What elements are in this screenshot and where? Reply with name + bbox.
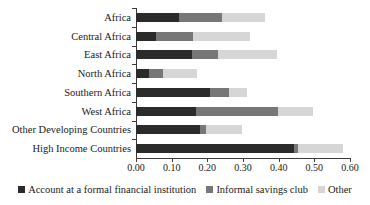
y-axis-tick-label: North Africa xyxy=(0,64,131,83)
x-axis-tick-label: 0.30 xyxy=(234,163,252,173)
legend-label: Informal savings club xyxy=(216,184,308,195)
bar-segment-other xyxy=(222,13,265,22)
x-axis-tick-label: 0.60 xyxy=(341,163,359,173)
bar-segment-other xyxy=(298,144,343,153)
bar-track xyxy=(136,144,350,153)
bar-segment-formal-account xyxy=(136,32,156,41)
y-axis-tick-mark xyxy=(132,27,136,28)
y-axis-tick-mark xyxy=(132,8,136,9)
bar-track xyxy=(136,88,350,97)
plot-area xyxy=(136,8,350,158)
bar-segment-formal-account xyxy=(136,107,196,116)
bar-segment-formal-account xyxy=(136,144,294,153)
bar-track xyxy=(136,69,350,78)
bar-segment-formal-account xyxy=(136,13,179,22)
bar-segment-informal-savings-club xyxy=(196,107,278,116)
y-axis-tick-mark xyxy=(132,121,136,122)
bar-track xyxy=(136,50,350,59)
legend-item: Account at a formal financial institutio… xyxy=(18,184,196,195)
x-axis-tick-label: 0.50 xyxy=(306,163,324,173)
y-axis-tick-label: West Africa xyxy=(0,102,131,121)
bar-segment-other xyxy=(218,50,277,59)
legend-swatch-icon xyxy=(18,186,25,193)
legend-swatch-icon xyxy=(206,186,213,193)
bar-segment-formal-account xyxy=(136,88,210,97)
bar-row xyxy=(136,64,350,83)
bar-segment-formal-account xyxy=(136,50,192,59)
bar-row xyxy=(136,8,350,27)
y-axis-tick-label: High Income Countries xyxy=(0,139,131,158)
y-axis-tick-label: East Africa xyxy=(0,46,131,65)
y-axis-tick-mark xyxy=(132,139,136,140)
bar-row xyxy=(136,83,350,102)
y-axis-tick-label: Africa xyxy=(0,8,131,27)
bar-row xyxy=(136,102,350,121)
bar-segment-other xyxy=(206,125,242,134)
bar-segment-other xyxy=(278,107,313,116)
bar-segment-informal-savings-club xyxy=(156,32,193,41)
legend-label: Other xyxy=(328,184,352,195)
bar-row xyxy=(136,121,350,140)
bar-segment-informal-savings-club xyxy=(179,13,222,22)
bar-segment-informal-savings-club xyxy=(149,69,163,78)
bar-row xyxy=(136,46,350,65)
x-axis-tick-label: 0.00 xyxy=(127,163,145,173)
y-axis-tick-mark xyxy=(132,46,136,47)
bar-track xyxy=(136,125,350,134)
y-axis-tick-label: Other Developing Countries xyxy=(0,121,131,140)
legend-item: Other xyxy=(318,184,352,195)
bar-segment-informal-savings-club xyxy=(210,88,229,97)
y-axis-tick-label: Southern Africa xyxy=(0,83,131,102)
legend-label: Account at a formal financial institutio… xyxy=(28,184,196,195)
bar-segment-formal-account xyxy=(136,69,149,78)
x-axis-tick-label: 0.10 xyxy=(163,163,181,173)
legend-item: Informal savings club xyxy=(206,184,308,195)
bar-track xyxy=(136,13,350,22)
x-axis-tick-label: 0.20 xyxy=(199,163,217,173)
y-axis-tick-label: Central Africa xyxy=(0,27,131,46)
bar-segment-other xyxy=(193,32,250,41)
y-axis-tick-mark xyxy=(132,83,136,84)
bar-segment-other xyxy=(163,69,197,78)
x-axis-tick-label: 0.40 xyxy=(270,163,288,173)
chart-legend: Account at a formal financial institutio… xyxy=(0,184,370,195)
bar-segment-other xyxy=(229,88,247,97)
bar-segment-formal-account xyxy=(136,125,200,134)
bar-track xyxy=(136,32,350,41)
bar-row xyxy=(136,27,350,46)
bar-segment-informal-savings-club xyxy=(192,50,218,59)
stacked-bar-chart: 0.000.100.200.300.400.500.60 Account at … xyxy=(0,0,370,205)
legend-swatch-icon xyxy=(318,186,325,193)
y-axis-tick-mark xyxy=(132,64,136,65)
y-axis-tick-mark xyxy=(132,102,136,103)
bar-track xyxy=(136,107,350,116)
bar-row xyxy=(136,139,350,158)
